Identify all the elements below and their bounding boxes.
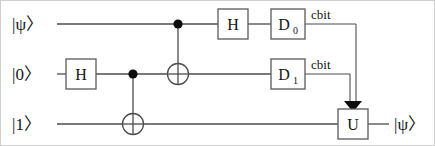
quantum-circuit-diagram: H H D 0 D 1 U cbit cbit |ψ〉 |0〉 |1〉 |ψ〉 bbox=[0, 0, 435, 146]
gate-label-d1: D bbox=[278, 66, 290, 83]
gate-label-h2: H bbox=[227, 16, 239, 33]
cbit-label-1: cbit bbox=[311, 57, 331, 72]
output-label-q2: |ψ〉 bbox=[394, 115, 425, 134]
cnot2-control-dot bbox=[173, 19, 182, 28]
cnot1-control-dot bbox=[128, 69, 137, 78]
gate-subscript-d0: 0 bbox=[293, 25, 298, 36]
gate-label-h1: H bbox=[75, 66, 87, 83]
gate-label-d0: D bbox=[278, 16, 290, 33]
input-label-q1: |0〉 bbox=[12, 65, 41, 84]
gate-label-u: U bbox=[347, 116, 359, 133]
input-label-q0: |ψ〉 bbox=[12, 15, 43, 34]
input-label-q2: |1〉 bbox=[12, 115, 41, 134]
cbit-label-0: cbit bbox=[311, 7, 331, 22]
gate-subscript-d1: 1 bbox=[293, 75, 298, 86]
circuit-canvas: H H D 0 D 1 U cbit cbit |ψ〉 |0〉 |1〉 |ψ〉 bbox=[0, 0, 435, 146]
